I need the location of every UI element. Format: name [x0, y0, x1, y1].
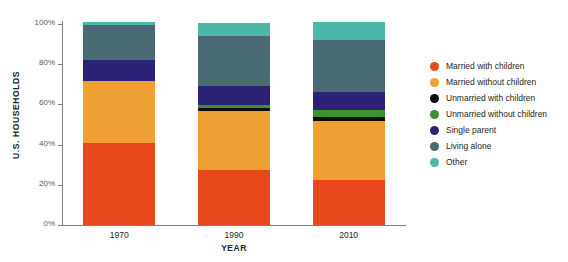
x-axis-title: YEAR — [62, 243, 406, 253]
legend-label: Married without children — [446, 77, 536, 87]
bar-segment — [198, 36, 270, 86]
legend-swatch-icon — [430, 126, 439, 135]
legend-label: Unmarried without children — [446, 109, 547, 119]
legend-label: Single parent — [446, 125, 496, 135]
y-axis-tick: 100% — [0, 24, 62, 25]
bar-segment — [313, 40, 385, 92]
bar-segment — [83, 25, 155, 60]
bar-1990 — [198, 24, 270, 225]
y-axis-tick-label: 60% — [39, 98, 55, 107]
bar-2010 — [313, 24, 385, 225]
x-axis-label-2010: 2010 — [304, 230, 394, 240]
bar-segment — [313, 180, 385, 225]
legend-swatch-icon — [430, 94, 439, 103]
bar-segment — [313, 92, 385, 110]
y-axis-tick: 80% — [0, 64, 62, 65]
bar-segment — [83, 22, 155, 25]
y-axis-tick-label: 40% — [39, 139, 55, 148]
bar-segment — [313, 22, 385, 40]
x-axis-line — [62, 225, 406, 226]
legend-swatch-icon — [430, 142, 439, 151]
y-axis-tick: 0% — [0, 225, 62, 226]
bar-segment — [313, 117, 385, 121]
y-axis-tick-label: 20% — [39, 179, 55, 188]
bar-segment — [198, 86, 270, 105]
bar-segment — [198, 105, 270, 108]
legend-label: Unmarried with children — [446, 93, 535, 103]
bar-segment — [83, 81, 155, 142]
legend-swatch-icon — [430, 78, 439, 87]
y-axis-title: U.S. HOUSEHOLDS — [11, 55, 21, 175]
legend-item[interactable]: Unmarried without children — [430, 106, 547, 122]
bar-segment — [313, 110, 385, 117]
bar-segment — [198, 170, 270, 225]
bar-segment — [313, 121, 385, 180]
legend-swatch-icon — [430, 110, 439, 119]
legend-item[interactable]: Married without children — [430, 74, 547, 90]
bar-segment — [198, 23, 270, 36]
bar-segment — [198, 111, 270, 169]
y-axis-tick-label: 100% — [35, 18, 55, 27]
y-axis-tick: 40% — [0, 145, 62, 146]
bar-1970 — [83, 24, 155, 225]
legend-swatch-icon — [430, 62, 439, 71]
legend-swatch-icon — [430, 158, 439, 167]
y-axis-tick-label: 80% — [39, 58, 55, 67]
legend-label: Other — [446, 157, 467, 167]
bar-segment — [83, 60, 155, 81]
chart-legend: Married with childrenMarried without chi… — [430, 58, 547, 170]
legend-label: Married with children — [446, 61, 524, 71]
legend-item[interactable]: Unmarried with children — [430, 90, 547, 106]
legend-item[interactable]: Single parent — [430, 122, 547, 138]
x-axis-label-1970: 1970 — [74, 230, 164, 240]
y-axis-tick-label: 0% — [43, 219, 55, 228]
plot-area — [62, 24, 402, 225]
y-axis-tick: 60% — [0, 104, 62, 105]
bar-segment — [83, 143, 155, 225]
bar-segment — [198, 108, 270, 111]
stacked-bar-chart: U.S. HOUSEHOLDS 0%20%40%60%80%100% 19701… — [0, 0, 568, 262]
y-axis-tick-mark — [58, 225, 62, 226]
legend-label: Living alone — [446, 141, 491, 151]
legend-item[interactable]: Married with children — [430, 58, 547, 74]
y-axis-tick: 20% — [0, 185, 62, 186]
legend-item[interactable]: Other — [430, 154, 547, 170]
x-axis-label-1990: 1990 — [189, 230, 279, 240]
legend-item[interactable]: Living alone — [430, 138, 547, 154]
